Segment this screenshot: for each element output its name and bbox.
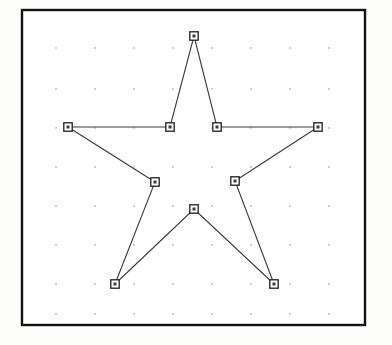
plot-canvas <box>0 0 392 345</box>
grid-dot <box>328 283 330 285</box>
grid-dot <box>328 127 330 129</box>
grid-dot <box>289 244 291 246</box>
grid-dot <box>133 205 135 207</box>
vertex-marker-inner-upper-left[interactable] <box>166 123 174 131</box>
grid-dot <box>55 283 57 285</box>
grid-dot <box>133 166 135 168</box>
grid-dot <box>250 47 252 49</box>
grid-dot <box>250 166 252 168</box>
vertex-marker-bottom-center-inner[interactable] <box>190 205 198 213</box>
vertex-marker-inner-upper-right[interactable] <box>213 123 221 131</box>
grid-dot <box>289 88 291 90</box>
grid-dot <box>172 283 174 285</box>
vertex-center-dot <box>234 180 237 183</box>
grid-dot <box>172 244 174 246</box>
grid-dot <box>289 166 291 168</box>
grid-dot <box>55 47 57 49</box>
vertex-marker-inner-lower-right[interactable] <box>231 177 239 185</box>
grid-dot <box>94 166 96 168</box>
grid-dot <box>289 283 291 285</box>
grid-dot <box>250 313 252 315</box>
grid-dot <box>55 166 57 168</box>
grid-dot <box>133 283 135 285</box>
grid-dot <box>289 47 291 49</box>
vertex-center-dot <box>154 181 157 184</box>
grid-dot <box>211 244 213 246</box>
vertex-marker-bottom-left-point[interactable] <box>111 280 119 288</box>
grid-dot <box>172 205 174 207</box>
vertex-center-dot <box>273 283 276 286</box>
grid-dot <box>172 88 174 90</box>
vertex-marker-left-point[interactable] <box>64 123 72 131</box>
grid-dot <box>55 313 57 315</box>
grid-dot <box>94 313 96 315</box>
grid-dot <box>211 47 213 49</box>
grid-dot <box>172 313 174 315</box>
grid-dot <box>172 166 174 168</box>
grid-dot <box>94 205 96 207</box>
grid-dot <box>211 283 213 285</box>
star-plot-figure <box>0 0 392 345</box>
grid-dot <box>289 205 291 207</box>
grid-dot <box>172 47 174 49</box>
grid-dot <box>55 127 57 129</box>
plot-border <box>22 10 365 325</box>
grid-dot <box>250 88 252 90</box>
grid-dot <box>94 88 96 90</box>
grid-dot <box>328 88 330 90</box>
grid-dot <box>211 313 213 315</box>
grid-dot <box>55 205 57 207</box>
grid-dot <box>55 88 57 90</box>
vertex-center-dot <box>114 283 117 286</box>
grid-dot <box>328 244 330 246</box>
grid-dot <box>133 313 135 315</box>
grid-dot <box>289 313 291 315</box>
grid-dot <box>211 88 213 90</box>
vertex-marker-inner-lower-left[interactable] <box>151 178 159 186</box>
grid-dot <box>250 283 252 285</box>
grid-dot <box>55 244 57 246</box>
grid-dot <box>211 205 213 207</box>
vertex-center-dot <box>169 126 172 129</box>
grid-dot <box>328 205 330 207</box>
vertex-center-dot <box>216 126 219 129</box>
grid-dot <box>133 47 135 49</box>
grid-dot <box>250 205 252 207</box>
vertex-center-dot <box>317 126 320 129</box>
vertex-marker-top-point[interactable] <box>190 32 198 40</box>
grid-dot <box>94 283 96 285</box>
grid-dot <box>328 166 330 168</box>
vertex-marker-bottom-right-point[interactable] <box>270 280 278 288</box>
vertex-marker-right-point[interactable] <box>314 123 322 131</box>
grid-dot <box>133 88 135 90</box>
vertex-center-dot <box>193 208 196 211</box>
grid-dot <box>250 244 252 246</box>
grid-dot <box>328 313 330 315</box>
vertex-center-dot <box>193 35 196 38</box>
grid-dot <box>94 244 96 246</box>
vertex-center-dot <box>67 126 70 129</box>
grid-dot <box>94 47 96 49</box>
grid-dot <box>133 244 135 246</box>
grid-dot <box>211 166 213 168</box>
grid-dot <box>328 47 330 49</box>
